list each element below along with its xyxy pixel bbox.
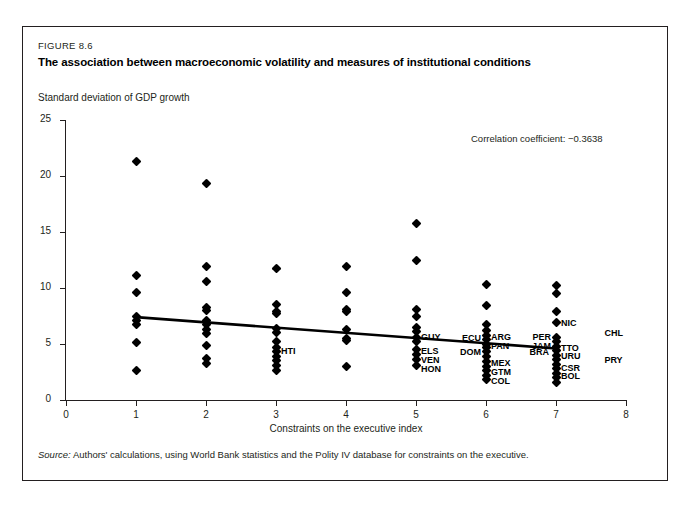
country-label-col: COL (491, 376, 510, 385)
x-tick-label: 0 (63, 409, 69, 420)
country-label-uru: URU (561, 352, 581, 361)
x-tick-label: 4 (343, 409, 349, 420)
y-tick-label: 15 (40, 225, 51, 236)
x-tick: 0 (66, 400, 67, 406)
country-label-chl: CHL (604, 328, 623, 337)
y-tick-label: 25 (40, 113, 51, 124)
y-axis-title: Standard deviation of GDP growth (38, 92, 190, 103)
source-note: Source: Authors' calculations, using Wor… (38, 449, 529, 460)
country-label-bol: BOL (561, 372, 580, 381)
x-tick-label: 3 (273, 409, 279, 420)
country-label-pry: PRY (604, 355, 622, 364)
x-tick-label: 2 (203, 409, 209, 420)
country-label-hon: HON (421, 364, 441, 373)
figure-number: FIGURE 8.6 (38, 40, 93, 51)
x-tick: 1 (136, 400, 137, 406)
y-tick-label: 0 (45, 393, 51, 404)
x-tick: 2 (206, 400, 207, 406)
country-label-ecu: ECU (462, 334, 481, 343)
correlation-coefficient-annotation: Correlation coefficient: −0.3638 (471, 133, 603, 144)
country-label-guy: GUY (421, 333, 441, 342)
y-tick-label: 20 (40, 169, 51, 180)
country-label-jam: JAM (532, 342, 551, 351)
x-tick: 6 (486, 400, 487, 406)
trend-line (66, 120, 626, 400)
country-label-dom: DOM (460, 347, 481, 356)
x-tick-label: 6 (483, 409, 489, 420)
country-label-pan: PAN (491, 342, 509, 351)
x-tick-label: 8 (623, 409, 629, 420)
y-tick-label: 5 (45, 337, 51, 348)
y-tick-label: 10 (40, 281, 51, 292)
x-tick-label: 7 (553, 409, 559, 420)
x-tick: 3 (276, 400, 277, 406)
x-tick: 7 (556, 400, 557, 406)
source-label: Source: (38, 449, 71, 460)
x-tick-label: 5 (413, 409, 419, 420)
x-tick: 8 (626, 400, 627, 406)
x-tick-label: 1 (133, 409, 139, 420)
source-text: Authors' calculations, using World Bank … (73, 449, 529, 460)
x-tick: 5 (416, 400, 417, 406)
chart-plot-wrapper: 0510152025 012345678 HTIGUYELSVENHONECUD… (38, 110, 648, 435)
country-label-hti: HTI (281, 346, 296, 355)
x-axis-title: Constraints on the executive index (66, 423, 626, 434)
country-label-nic: NIC (561, 318, 577, 327)
x-tick: 4 (346, 400, 347, 406)
scatter-plot-area: 0510152025 012345678 HTIGUYELSVENHONECUD… (66, 120, 626, 400)
figure-title: The association between macroeconomic vo… (38, 56, 531, 68)
